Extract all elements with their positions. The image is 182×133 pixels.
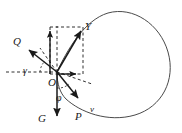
label-O: O [48,76,56,88]
label-G: G [38,112,46,124]
force-diagram-figure: Y Q G P v O γ φ [0,0,182,133]
label-v: v [90,104,94,114]
label-P: P [74,110,82,122]
diagram-canvas: Y Q G P v O γ φ [0,0,182,133]
label-phi: φ [56,92,62,103]
label-Q: Q [13,35,21,47]
